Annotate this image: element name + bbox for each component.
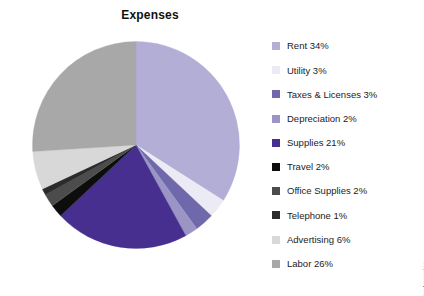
legend-swatch-icon (272, 115, 280, 123)
legend-swatch-icon (272, 260, 280, 268)
legend-item-label: Advertising 6% (287, 235, 350, 245)
legend-item-label: Depreciation 2% (287, 114, 357, 124)
legend-swatch-icon (272, 163, 280, 171)
chart-figure: Expenses Rent 34%Utility 3%Taxes & Licen… (0, 0, 424, 296)
pie-slice (32, 42, 136, 152)
legend-swatch-icon (272, 66, 280, 74)
pie-chart-svg (32, 41, 240, 249)
legend-item[interactable]: Utility 3% (272, 58, 402, 82)
legend-swatch-icon (272, 187, 280, 195)
legend-swatch-icon (272, 139, 280, 147)
legend-item[interactable]: Taxes & Licenses 3% (272, 82, 402, 106)
legend-swatch-icon (272, 42, 280, 50)
legend-item-label: Taxes & Licenses 3% (287, 90, 377, 100)
legend-item[interactable]: Office Supplies 2% (272, 179, 402, 203)
legend-item[interactable]: Rent 34% (272, 34, 402, 58)
legend-item[interactable]: Travel 2% (272, 155, 402, 179)
legend-item[interactable]: Depreciation 2% (272, 107, 402, 131)
chart-legend: Rent 34%Utility 3%Taxes & Licenses 3%Dep… (272, 34, 402, 276)
legend-item[interactable]: Labor 26% (272, 252, 402, 276)
legend-item-label: Travel 2% (287, 162, 329, 172)
legend-item-label: Rent 34% (287, 41, 329, 51)
legend-item-label: Utility 3% (287, 66, 327, 76)
pie-chart (32, 41, 240, 249)
legend-swatch-icon (272, 236, 280, 244)
page-title: Expenses (0, 8, 300, 22)
legend-item-label: Office Supplies 2% (287, 186, 367, 196)
legend-swatch-icon (272, 211, 280, 219)
legend-item[interactable]: Supplies 21% (272, 131, 402, 155)
legend-swatch-icon (272, 90, 280, 98)
legend-item-label: Labor 26% (287, 259, 333, 269)
legend-item[interactable]: Advertising 6% (272, 228, 402, 252)
legend-item-label: Telephone 1% (287, 211, 347, 221)
pie-slice-group (32, 42, 239, 249)
legend-item[interactable]: Telephone 1% (272, 203, 402, 227)
legend-item-label: Supplies 21% (287, 138, 345, 148)
